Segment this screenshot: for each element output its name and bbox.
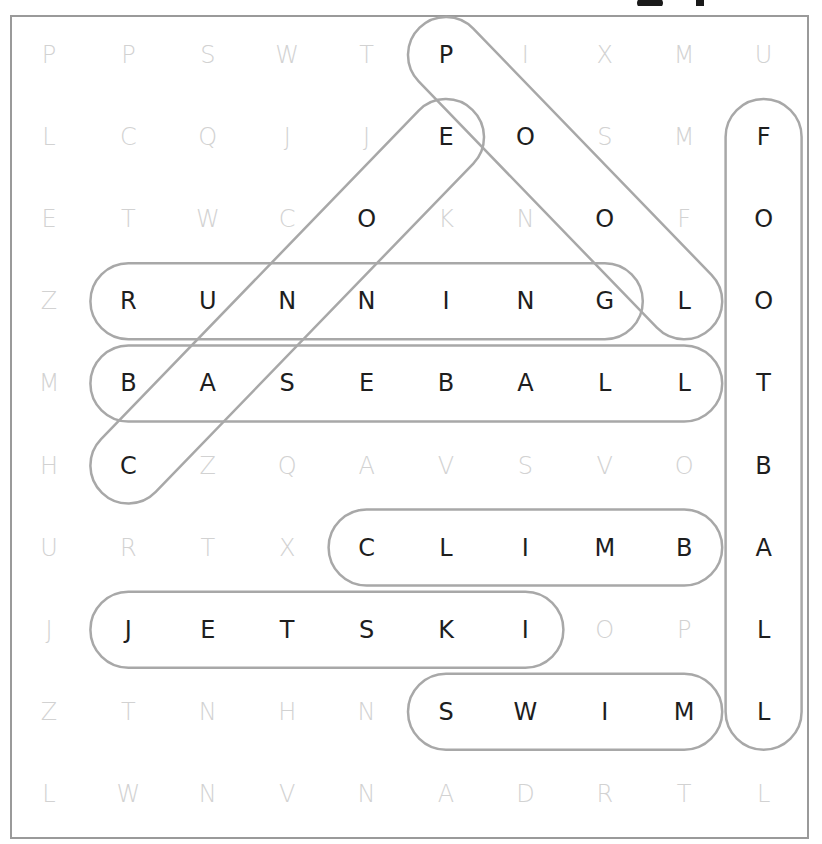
letter-cell[interactable]: O <box>734 199 794 239</box>
letter-cell[interactable]: X <box>575 35 635 75</box>
letter-cell[interactable]: O <box>654 446 714 486</box>
letter-cell[interactable]: L <box>19 774 79 814</box>
letter-cell[interactable]: V <box>575 446 635 486</box>
letter-cell[interactable]: K <box>416 199 476 239</box>
letter-cell[interactable]: I <box>575 692 635 732</box>
letter-cell[interactable]: S <box>337 610 397 650</box>
letter-cell[interactable]: J <box>257 117 317 157</box>
letter-cell[interactable]: N <box>178 692 238 732</box>
letter-cell[interactable]: E <box>416 117 476 157</box>
letter-cell[interactable]: L <box>654 363 714 403</box>
letter-cell[interactable]: W <box>495 692 555 732</box>
letter-cell[interactable]: E <box>178 610 238 650</box>
letter-cell[interactable]: Q <box>257 446 317 486</box>
letter-cell[interactable]: R <box>575 774 635 814</box>
letter-cell[interactable]: Z <box>19 692 79 732</box>
letter-cell[interactable]: B <box>654 528 714 568</box>
letter-cell[interactable]: M <box>654 35 714 75</box>
letter-cell[interactable]: X <box>257 528 317 568</box>
letter-cell[interactable]: T <box>257 610 317 650</box>
letter-cell[interactable]: C <box>98 117 158 157</box>
letter-cell[interactable]: L <box>734 774 794 814</box>
letter-cell[interactable]: Z <box>19 281 79 321</box>
letter-cell[interactable]: N <box>337 692 397 732</box>
letter-cell[interactable]: C <box>98 446 158 486</box>
letter-cell[interactable]: P <box>416 35 476 75</box>
letter-cell[interactable]: S <box>495 446 555 486</box>
letter-cell[interactable]: L <box>416 528 476 568</box>
letter-cell[interactable]: P <box>19 35 79 75</box>
letter-cell[interactable]: N <box>337 774 397 814</box>
letter-cell[interactable]: D <box>495 774 555 814</box>
letter-cell[interactable]: M <box>654 692 714 732</box>
letter-cell[interactable]: G <box>575 281 635 321</box>
letter-cell[interactable]: O <box>495 117 555 157</box>
letter-cell[interactable]: V <box>416 446 476 486</box>
letter-cell[interactable]: C <box>257 199 317 239</box>
letter-cell[interactable]: U <box>178 281 238 321</box>
letter-cell[interactable]: J <box>19 610 79 650</box>
letter-cell[interactable]: L <box>654 281 714 321</box>
letter-cell[interactable]: T <box>734 363 794 403</box>
letter-cell[interactable]: M <box>654 117 714 157</box>
letter-cell[interactable]: K <box>416 610 476 650</box>
letter-cell[interactable]: B <box>416 363 476 403</box>
letter-cell[interactable]: A <box>734 528 794 568</box>
letter-cell[interactable]: F <box>734 117 794 157</box>
letter-cell[interactable]: H <box>257 692 317 732</box>
letter-cell[interactable]: J <box>337 117 397 157</box>
letter-cell[interactable]: Q <box>178 117 238 157</box>
letter-cell[interactable]: N <box>337 281 397 321</box>
letter-cell[interactable]: S <box>575 117 635 157</box>
letter-cell[interactable]: W <box>98 774 158 814</box>
letter-cell[interactable]: S <box>257 363 317 403</box>
letter-cell[interactable]: I <box>416 281 476 321</box>
letter-cell[interactable]: W <box>257 35 317 75</box>
letter-cell[interactable]: I <box>495 528 555 568</box>
letter-cell[interactable]: L <box>734 610 794 650</box>
letter-cell[interactable]: A <box>337 446 397 486</box>
letter-cell[interactable]: L <box>19 117 79 157</box>
letter-cell[interactable]: T <box>98 692 158 732</box>
letter-cell[interactable]: L <box>734 692 794 732</box>
letter-cell[interactable]: B <box>98 363 158 403</box>
letter-cell[interactable]: H <box>19 446 79 486</box>
letter-cell[interactable]: R <box>98 281 158 321</box>
letter-cell[interactable]: A <box>495 363 555 403</box>
letter-cell[interactable]: B <box>734 446 794 486</box>
letter-cell[interactable]: O <box>575 199 635 239</box>
letter-cell[interactable]: E <box>337 363 397 403</box>
letter-cell[interactable]: O <box>575 610 635 650</box>
letter-cell[interactable]: T <box>98 199 158 239</box>
letter-cell[interactable]: R <box>98 528 158 568</box>
letter-cell[interactable]: C <box>337 528 397 568</box>
letter-cell[interactable]: I <box>495 35 555 75</box>
letter-cell[interactable]: N <box>257 281 317 321</box>
letter-cell[interactable]: J <box>98 610 158 650</box>
letter-cell[interactable]: O <box>734 281 794 321</box>
letter-cell[interactable]: U <box>19 528 79 568</box>
letter-cell[interactable]: Z <box>178 446 238 486</box>
letter-cell[interactable]: N <box>495 281 555 321</box>
letter-cell[interactable]: A <box>178 363 238 403</box>
letter-cell[interactable]: M <box>575 528 635 568</box>
letter-cell[interactable]: L <box>575 363 635 403</box>
letter-cell[interactable]: P <box>654 610 714 650</box>
letter-cell[interactable]: V <box>257 774 317 814</box>
letter-cell[interactable]: S <box>178 35 238 75</box>
letter-cell[interactable]: N <box>178 774 238 814</box>
letter-cell[interactable]: T <box>654 774 714 814</box>
letter-cell[interactable]: N <box>495 199 555 239</box>
letter-cell[interactable]: A <box>416 774 476 814</box>
letter-cell[interactable]: P <box>98 35 158 75</box>
letter-cell[interactable]: U <box>734 35 794 75</box>
letter-cell[interactable]: I <box>495 610 555 650</box>
letter-cell[interactable]: E <box>19 199 79 239</box>
letter-cell[interactable]: S <box>416 692 476 732</box>
letter-cell[interactable]: F <box>654 199 714 239</box>
letter-cell[interactable]: T <box>178 528 238 568</box>
letter-cell[interactable]: W <box>178 199 238 239</box>
letter-cell[interactable]: T <box>337 35 397 75</box>
letter-cell[interactable]: O <box>337 199 397 239</box>
letter-cell[interactable]: M <box>19 363 79 403</box>
